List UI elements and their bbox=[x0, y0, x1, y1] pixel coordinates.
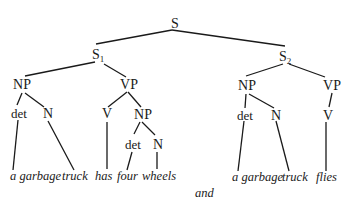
node-s1: S1 bbox=[92, 47, 104, 64]
node-n-2: N bbox=[153, 137, 163, 152]
tree-nodes: S S1 S2 NP VP NP VP det N V NP det N det… bbox=[11, 16, 341, 152]
word-wheels: wheels bbox=[142, 169, 176, 183]
word-truck-1: truck bbox=[62, 169, 88, 183]
word-a-garbage-2: a garbage bbox=[232, 170, 283, 184]
word-has: has bbox=[95, 169, 113, 183]
node-v-2: V bbox=[323, 108, 333, 123]
node-vp-1: VP bbox=[120, 77, 138, 92]
node-v-1: V bbox=[102, 106, 112, 121]
word-flies: flies bbox=[316, 170, 337, 184]
node-np-2: NP bbox=[134, 107, 152, 122]
node-n-1: N bbox=[43, 106, 53, 121]
word-a-garbage-1: a garbage bbox=[10, 169, 61, 183]
node-n-3: N bbox=[271, 108, 281, 123]
node-det-2: det bbox=[125, 137, 141, 152]
sentence-2: a garbage truck flies bbox=[232, 170, 337, 184]
node-vp-2: VP bbox=[323, 78, 341, 93]
syntax-tree-diagram: S S1 S2 NP VP NP VP det N V NP det N det… bbox=[0, 0, 350, 207]
node-det-1: det bbox=[11, 106, 27, 121]
node-s: S bbox=[171, 16, 179, 31]
conjunction-and: and bbox=[195, 186, 215, 200]
node-det-3: det bbox=[237, 108, 253, 123]
node-np-1: NP bbox=[13, 77, 31, 92]
sentence-1: a garbage truck has four wheels bbox=[10, 169, 176, 183]
node-s2: S2 bbox=[279, 49, 291, 66]
word-truck-2: truck bbox=[282, 170, 308, 184]
word-four: four bbox=[117, 169, 138, 183]
node-np-3: NP bbox=[238, 78, 256, 93]
